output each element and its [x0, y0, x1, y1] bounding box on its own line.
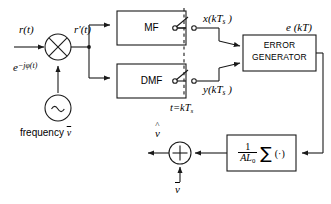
y-sample-arg: (kT — [208, 83, 223, 95]
error-generator-label-line1: ERROR — [243, 41, 316, 50]
summation-operand: (·) — [275, 148, 285, 159]
block-diagram-canvas: r(t) r'(t) e−jφ(t) frequency ν MF DMF x(… — [0, 0, 331, 204]
error-generator-label-line2: GENERATOR — [243, 53, 316, 62]
loop-filter-fraction: 1 AL0 — [238, 142, 257, 165]
wire-x-into-error-generator — [219, 41, 240, 46]
sampling-instant-lhs: t=kT — [170, 102, 191, 113]
wire-y-into-error-generator — [219, 63, 240, 68]
x-sample-arg: (kT — [208, 12, 223, 24]
switch-contact-mf-out — [192, 26, 197, 31]
label-mixer-local-oscillator: e−jφ(t) — [13, 62, 37, 73]
sampling-instant-sub: s — [191, 107, 194, 115]
frequency-estimate-hat: ^ — [155, 121, 160, 130]
matched-filter-label: MF — [117, 22, 186, 33]
summation-symbol: ∑ — [260, 143, 271, 163]
label-x-sample: x(kTs ) — [203, 13, 232, 26]
x-sample-close: ) — [225, 12, 231, 24]
label-y-sample: y(kTs ) — [203, 84, 232, 97]
loop-filter-denominator-gain: AL — [240, 152, 252, 163]
lo-exponent: −jφ(t) — [18, 61, 37, 70]
label-oscillator-caption: frequency ν — [20, 128, 71, 138]
loop-filter-expression: 1 AL0 ∑ (·) — [227, 135, 296, 171]
label-frequency-estimate: ν ^ — [155, 128, 160, 139]
label-error-signal: e (kT) — [286, 22, 312, 33]
oscillator-caption-text: frequency — [20, 127, 64, 138]
loop-filter-denominator-sub: 0 — [252, 157, 255, 164]
label-mixed-signal: r'(t) — [74, 24, 91, 35]
label-sampling-instant: t=kTs — [170, 103, 193, 115]
label-frequency-feedback: ν — [175, 184, 180, 195]
label-input-signal: r(t) — [19, 24, 34, 35]
oscillator-frequency-symbol: ν — [67, 127, 71, 138]
oscillator-circle — [45, 95, 71, 121]
derivative-matched-filter-label: DMF — [117, 75, 186, 86]
y-sample-close: ) — [225, 83, 231, 95]
switch-contact-dmf-out — [192, 79, 197, 84]
loop-filter-denominator: AL0 — [238, 153, 257, 164]
